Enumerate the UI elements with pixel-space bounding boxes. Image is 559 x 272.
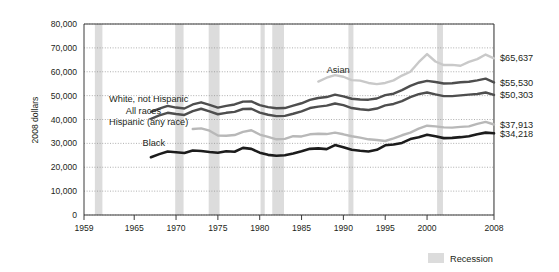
chart-legend: Recession	[428, 253, 493, 264]
y-tick-label: 50,000	[51, 91, 78, 101]
recession-band	[95, 24, 103, 215]
chart-canvas: 010,00020,00030,00040,00050,00060,00070,…	[0, 0, 559, 272]
y-tick-label: 30,000	[51, 138, 78, 148]
end-value-label: $50,303	[500, 90, 533, 100]
end-value-label: $55,530	[500, 78, 533, 88]
x-tick-label: 1970	[166, 223, 185, 233]
series-annotation: Black	[143, 138, 166, 148]
recession-legend-swatch	[428, 253, 444, 263]
end-value-label: $65,637	[500, 53, 533, 63]
series-annotation: All races	[126, 106, 162, 116]
end-value-label: $34,218	[500, 129, 533, 139]
series-annotation: White, not Hispanic	[109, 94, 189, 104]
y-axis-title: 2008 dollars	[30, 97, 40, 144]
y-tick-label: 0	[72, 210, 77, 220]
recession-legend-label: Recession	[450, 254, 493, 264]
x-tick-label: 1985	[292, 223, 311, 233]
x-tick-label: 1980	[250, 223, 269, 233]
x-tick-label: 1990	[334, 223, 353, 233]
series-annotation: Asian	[327, 65, 350, 75]
income-by-race-line-chart: 010,00020,00030,00040,00050,00060,00070,…	[0, 0, 559, 272]
x-tick-label: 2008	[484, 223, 503, 233]
y-tick-label: 10,000	[51, 186, 78, 196]
x-tick-label: 1995	[376, 223, 395, 233]
y-tick-label: 70,000	[51, 43, 78, 53]
y-tick-label: 60,000	[51, 67, 78, 77]
x-tick-label: 1975	[208, 223, 227, 233]
y-axis-tick-labels: 010,00020,00030,00040,00050,00060,00070,…	[51, 19, 78, 220]
x-tick-label: 1959	[74, 223, 93, 233]
y-tick-label: 40,000	[51, 115, 78, 125]
y-tick-label: 80,000	[51, 19, 78, 29]
x-tick-label: 1965	[125, 223, 144, 233]
x-tick-label: 2000	[417, 223, 436, 233]
y-tick-label: 20,000	[51, 162, 78, 172]
series-annotation: Hispanic (any race)	[109, 117, 188, 127]
